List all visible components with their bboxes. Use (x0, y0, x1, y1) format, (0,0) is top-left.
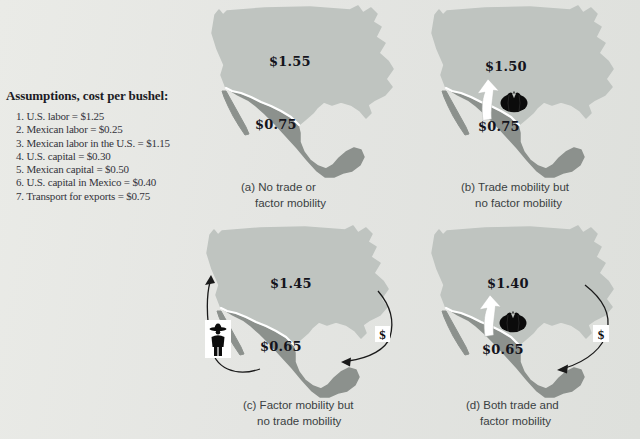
mexico-price-label: $0.65 (260, 340, 302, 354)
assumptions-title: Assumptions, cost per bushel: (6, 88, 204, 103)
dollar-sign-icon: $ (379, 327, 386, 342)
us-price-label: $1.45 (270, 277, 312, 291)
figure-trade-factor-mobility: Assumptions, cost per bushel: 1. U.S. la… (0, 0, 640, 439)
caption-line-2: factor mobility (480, 414, 559, 430)
mexico-price-label: $0.75 (255, 118, 297, 132)
mexico-price-label: $0.65 (482, 343, 524, 357)
assumption-us-capital: 4. U.S. capital = $0.30 (6, 150, 204, 163)
panel-c-factor-no-trade: $ $1.45 $0.65 (c) Factor mobility but no… (200, 225, 410, 437)
assumption-us-capital-in-mexico: 6. U.S. capital in Mexico = $0.40 (6, 176, 204, 189)
assumptions-panel: Assumptions, cost per bushel: 1. U.S. la… (6, 88, 204, 203)
assumption-mexican-labor-in-us: 3. Mexican labor in the U.S. = $1.15 (6, 137, 204, 150)
panel-c-caption: (c) Factor mobility but no trade mobilit… (243, 398, 354, 429)
assumption-mexican-capital: 5. Mexican capital = $0.50 (6, 163, 204, 176)
dollar-sign-box: $ (375, 326, 390, 342)
caption-line-1: (b) Trade mobility but (461, 180, 569, 196)
us-price-label: $1.40 (487, 277, 529, 291)
panel-d-caption: (d) Both trade and factor mobility (466, 398, 559, 429)
caption-line-2: factor mobility (255, 196, 326, 212)
assumption-us-labor: 1. U.S. labor = $1.25 (6, 110, 204, 123)
caption-line-2: no trade mobility (257, 414, 354, 430)
dollar-sign-icon: $ (598, 327, 605, 342)
panel-a-caption: (a) No trade or factor mobility (241, 180, 326, 211)
caption-line-1: (d) Both trade and (466, 398, 559, 414)
assumption-transport: 7. Transport for exports = $0.75 (6, 190, 204, 203)
mexico-price-label: $0.75 (478, 120, 520, 134)
migrant-worker-icon (205, 320, 231, 358)
us-price-label: $1.50 (485, 60, 527, 74)
caption-line-1: (c) Factor mobility but (243, 398, 354, 414)
panel-a-no-trade-no-factor: $1.55 $0.75 (a) No trade or factor mobil… (205, 5, 415, 217)
panel-b-trade-no-factor: $1.50 $0.75 (b) Trade mobility but no fa… (425, 5, 635, 217)
assumption-mexican-labor: 2. Mexican labor = $0.25 (6, 123, 204, 136)
dollar-sign-box: $ (593, 325, 609, 342)
caption-line-1: (a) No trade or (241, 180, 326, 196)
panel-d-trade-and-factor: $ $1.40 $0.65 (d) Both trade and factor … (425, 225, 635, 437)
caption-line-2: no factor mobility (475, 196, 569, 212)
panel-b-caption: (b) Trade mobility but no factor mobilit… (461, 180, 569, 211)
us-price-label: $1.55 (269, 55, 311, 69)
